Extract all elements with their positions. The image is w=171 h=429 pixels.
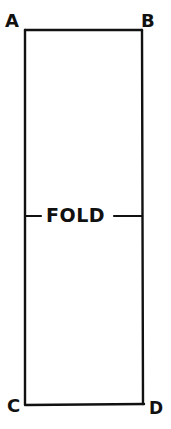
corner-label-b: B xyxy=(141,12,155,30)
corner-label-a: A xyxy=(5,12,19,30)
fold-label: FOLD xyxy=(46,206,105,225)
corner-label-c: C xyxy=(7,397,20,415)
corner-label-d: D xyxy=(149,400,163,417)
